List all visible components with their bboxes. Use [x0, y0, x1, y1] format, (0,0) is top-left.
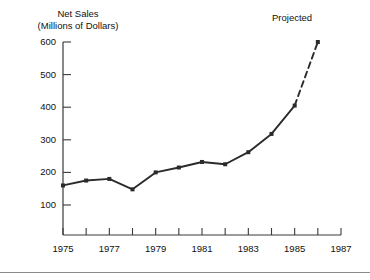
data-point-marker [293, 104, 297, 108]
data-point-marker [177, 166, 181, 170]
series-line-projected [295, 42, 318, 106]
x-axis-tick-label: 1987 [321, 243, 361, 254]
y-axis-tick-label: 500 [22, 69, 56, 80]
bottom-divider-rule [0, 272, 370, 273]
data-point-marker [316, 40, 320, 44]
net-sales-line-chart: Net Sales(Millions of Dollars) Projected… [0, 0, 370, 280]
data-point-marker [246, 150, 250, 154]
data-point-marker [84, 179, 88, 183]
data-point-marker [200, 160, 204, 164]
x-axis-tick-label: 1985 [275, 243, 315, 254]
x-axis-tick-label: 1979 [136, 243, 176, 254]
data-point-marker [223, 162, 227, 166]
x-axis-tick-label: 1977 [89, 243, 129, 254]
y-axis-tick-label: 100 [22, 199, 56, 210]
data-point-marker [270, 132, 274, 136]
x-axis-tick-label: 1983 [228, 243, 268, 254]
y-axis-ticks [63, 42, 71, 205]
y-axis-tick-label: 400 [22, 101, 56, 112]
data-point-marker [154, 170, 158, 174]
x-axis-ticks [63, 228, 341, 235]
data-point-marker [61, 183, 65, 187]
chart-data-markers [61, 40, 320, 191]
y-axis-tick-label: 300 [22, 134, 56, 145]
y-axis-tick-label: 200 [22, 166, 56, 177]
series-line-actual [63, 106, 295, 190]
x-axis-tick-label: 1981 [182, 243, 222, 254]
chart-series-group [63, 42, 318, 189]
data-point-marker [107, 177, 111, 181]
x-axis-tick-label: 1975 [43, 243, 83, 254]
chart-axes [63, 42, 341, 235]
data-point-marker [131, 187, 135, 191]
y-axis-tick-label: 600 [22, 36, 56, 47]
